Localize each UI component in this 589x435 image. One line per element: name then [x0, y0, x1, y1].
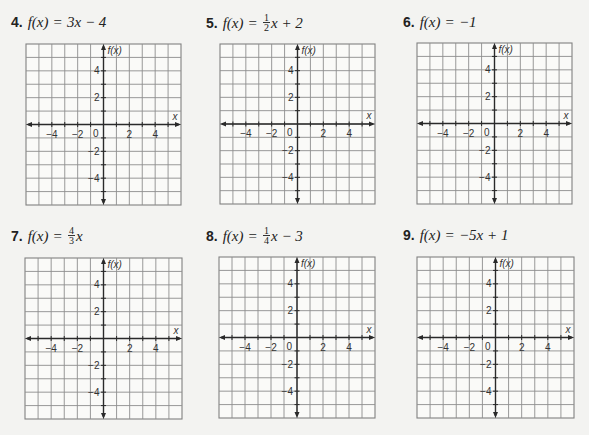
y-tick-label: 4: [94, 65, 100, 76]
equals-sign: =: [249, 14, 257, 32]
y-axis-label: f(x): [301, 258, 315, 269]
function-expression: x − 3: [271, 227, 303, 245]
function-expression: 3x − 4: [67, 13, 106, 31]
problem-number: 6.: [403, 13, 415, 31]
y-tick-label: −4: [88, 173, 100, 184]
y-tick-label: −2: [282, 359, 294, 370]
origin-label: 0: [93, 128, 99, 139]
x-tick-label: 2: [519, 342, 525, 353]
x-tick-label: 2: [127, 129, 133, 140]
coordinate-grid[interactable]: −4−22442−2−40xf(x): [219, 257, 375, 418]
origin-label: 0: [484, 127, 490, 138]
x-tick-label: −2: [72, 343, 84, 354]
x-tick-label: 4: [543, 128, 549, 139]
x-tick-label: −2: [72, 129, 84, 140]
problem-number: 5.: [206, 14, 218, 32]
x-axis-label: x: [366, 324, 373, 335]
x-tick-label: 4: [346, 342, 352, 353]
y-tick-label: 4: [486, 278, 492, 289]
y-axis-label: f(x): [108, 45, 122, 56]
x-tick-label: −2: [463, 128, 475, 139]
x-tick-label: −4: [45, 343, 57, 354]
y-tick-label: −4: [88, 387, 100, 398]
y-axis-label: f(x): [500, 258, 514, 269]
x-tick-label: −4: [239, 342, 251, 353]
x-tick-label: 2: [320, 342, 326, 353]
y-tick-label: 4: [485, 64, 491, 75]
fraction-coefficient: 43: [68, 226, 75, 245]
equals-sign: =: [54, 13, 62, 31]
y-tick-label: −2: [480, 359, 492, 370]
x-tick-label: 2: [518, 128, 524, 139]
y-tick-label: −4: [282, 172, 294, 183]
y-tick-label: 4: [287, 278, 293, 289]
coordinate-grid[interactable]: −4−22442−2−40xf(x): [220, 44, 375, 204]
problem-number: 4.: [11, 13, 23, 31]
x-tick-label: 4: [153, 343, 159, 354]
y-tick-label: 2: [288, 92, 294, 103]
function-name: f(x): [420, 13, 441, 31]
problem-number: 9.: [403, 226, 415, 244]
y-tick-label: −2: [88, 146, 100, 157]
function-expression: −5x + 1: [459, 226, 508, 244]
coordinate-grid[interactable]: −4−22442−2−40xf(x): [417, 43, 572, 204]
problem-title: 4.f(x)=3x − 4: [11, 13, 106, 31]
y-tick-label: −2: [479, 145, 491, 156]
problem-title: 7.f(x)=43x: [11, 226, 83, 245]
y-tick-label: 2: [485, 91, 491, 102]
x-tick-label: 4: [346, 128, 352, 139]
fraction-denominator: 3: [68, 236, 75, 245]
x-tick-label: −2: [266, 128, 278, 139]
fraction-coefficient: 14: [263, 226, 270, 245]
function-name: f(x): [28, 13, 49, 31]
fraction-coefficient: 12: [263, 13, 270, 32]
y-tick-label: −4: [479, 172, 491, 183]
x-tick-label: −4: [437, 342, 449, 353]
x-tick-label: 2: [321, 128, 327, 139]
fraction-denominator: 4: [263, 236, 270, 245]
x-tick-label: −4: [46, 129, 58, 140]
problem-title: 8.f(x)=14x − 3: [206, 226, 303, 245]
x-tick-label: 4: [152, 129, 158, 140]
function-expression: −1: [459, 13, 477, 31]
x-axis-label: x: [565, 324, 572, 335]
x-axis-label: x: [366, 110, 373, 121]
y-axis-label: f(x): [499, 44, 513, 55]
x-tick-label: −2: [464, 342, 476, 353]
problem-title: 6.f(x)=−1: [403, 13, 477, 31]
x-tick-label: 2: [127, 343, 133, 354]
x-tick-label: −4: [240, 128, 252, 139]
y-tick-label: −4: [480, 386, 492, 397]
problem-title: 9.f(x)=−5x + 1: [403, 226, 508, 244]
y-tick-label: −4: [282, 386, 294, 397]
problem-number: 8.: [206, 227, 218, 245]
origin-label: 0: [286, 341, 292, 352]
equals-sign: =: [446, 13, 454, 31]
y-tick-label: −2: [282, 145, 294, 156]
y-tick-label: 2: [94, 92, 100, 103]
function-name: f(x): [28, 227, 49, 245]
coordinate-grid[interactable]: −4−22442−2−40xf(x): [26, 44, 181, 205]
y-tick-label: −2: [88, 360, 100, 371]
y-tick-label: 2: [94, 306, 100, 317]
problem-title: 5.f(x)=12x + 2: [206, 13, 303, 32]
x-axis-label: x: [563, 110, 570, 121]
function-expression: x + 2: [271, 14, 303, 32]
function-expression: x: [76, 227, 83, 245]
y-axis-label: f(x): [108, 259, 122, 270]
x-tick-label: −2: [265, 342, 277, 353]
y-tick-label: 2: [486, 305, 492, 316]
function-name: f(x): [420, 226, 441, 244]
equals-sign: =: [249, 227, 257, 245]
fraction-denominator: 2: [263, 23, 270, 32]
y-tick-label: 2: [287, 305, 293, 316]
y-axis-label: f(x): [302, 45, 316, 56]
coordinate-grid[interactable]: −4−22442−2−40xf(x): [417, 257, 574, 418]
y-tick-label: 4: [288, 65, 294, 76]
equals-sign: =: [54, 227, 62, 245]
origin-label: 0: [287, 127, 293, 138]
y-tick-label: 4: [94, 279, 100, 290]
coordinate-grid[interactable]: −4−22442−2−4xf(x): [25, 258, 182, 419]
x-axis-label: x: [172, 111, 179, 122]
function-name: f(x): [223, 227, 244, 245]
